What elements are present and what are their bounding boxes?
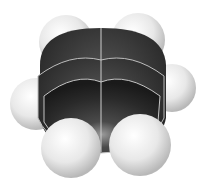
molecule-illustration (0, 0, 208, 185)
benzene-model: Space-filling molecular model of benzene (0, 0, 208, 185)
